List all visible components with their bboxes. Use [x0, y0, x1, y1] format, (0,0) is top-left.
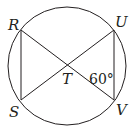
angle-label: 60°	[89, 71, 114, 87]
label-R: R	[7, 16, 19, 34]
label-T: T	[62, 70, 73, 88]
label-S: S	[9, 103, 19, 121]
label-U: U	[115, 13, 129, 31]
geometry-diagram: R U S V T 60°	[0, 0, 133, 131]
label-V: V	[116, 101, 129, 119]
